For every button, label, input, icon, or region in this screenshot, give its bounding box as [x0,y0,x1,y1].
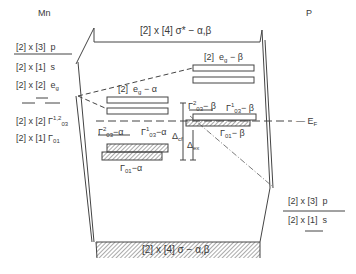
eg-alpha-bar-2 [107,108,168,114]
delta-cf-label: Δcf [172,131,183,144]
eg-alpha-label: [2] eg − α [118,84,157,97]
g01-beta-label: Γ01− β [220,128,245,141]
p-level-s: [2] x [1] s [288,215,327,225]
fermi-label: — EF [296,116,317,129]
sigma-star-label: [2] x [4] σ* − α,β [140,26,211,36]
eg-beta-bar-2 [193,77,254,83]
g01-alpha-label: Γ01−α [120,163,142,176]
g03-alpha-bar [107,144,168,152]
eg-beta-label: [2] eg − β [204,52,243,65]
eg-beta-bar-1 [193,65,254,71]
g03-1-alpha-label: Γ103−α [141,124,166,140]
sigma-label: [2] x [4] σ − α,β [142,245,209,255]
g03-2-beta-label: Γ203− β [188,98,216,114]
mn-level-eg: [2] x [2] eg [16,80,59,93]
g01-alpha-bar [102,152,162,160]
delta-ex-label: Δex [187,140,199,153]
g03-1-beta-label: Γ103− β [226,100,254,116]
mn-level-g01: [2] x [1] Γ01 [16,133,60,146]
p-atom-label: P [306,8,312,18]
mn-level-s: [2] x [1] s [16,62,55,72]
mn-level-g03: [2] x [2] Γ1,203 [16,113,68,129]
mn-atom-label: Mn [38,8,51,18]
p-level-p: [2] x [3] p [288,196,328,206]
g03-2-alpha-label: Γ203−α [98,124,123,140]
mn-level-p: [2] x [3] p [16,42,56,52]
eg-alpha-bar-1 [107,97,168,103]
g01-beta-bar [186,120,250,126]
